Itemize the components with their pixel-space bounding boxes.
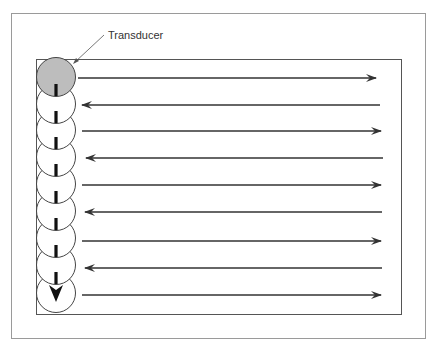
scan-path-dash <box>54 191 57 203</box>
scan-line-5 <box>82 181 382 189</box>
scan-path-dash <box>54 272 57 284</box>
scan-path-dash <box>54 137 57 149</box>
scan-line-6 <box>84 208 382 216</box>
scan-line-4 <box>85 154 383 162</box>
scan-line-2 <box>81 101 380 109</box>
scan-line-8 <box>84 264 382 272</box>
scan-path-dash <box>54 218 57 230</box>
transducer-positions <box>37 58 76 313</box>
inner-scan-area <box>37 60 402 315</box>
scan-line-7 <box>82 237 382 245</box>
scan-line-1 <box>78 74 377 82</box>
scan-line-9 <box>82 291 382 299</box>
scan-path-dash <box>54 164 57 176</box>
scan-lines <box>78 74 383 299</box>
scan-line-3 <box>82 127 382 135</box>
raster-scan-diagram: Transducer <box>0 0 436 342</box>
scan-path-dash <box>54 111 57 123</box>
scan-path-dash <box>54 245 57 257</box>
scan-path-dash <box>54 84 57 96</box>
label-leader-line <box>74 35 104 63</box>
transducer-label: Transducer <box>108 29 164 41</box>
